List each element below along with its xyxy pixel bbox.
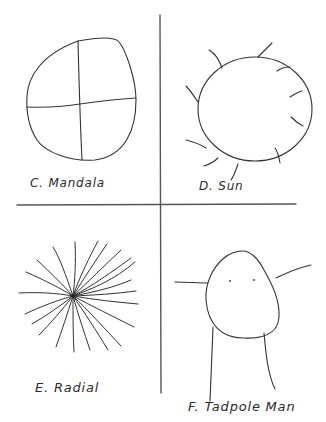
drawing-canvas	[0, 0, 326, 422]
sun-ray	[209, 50, 222, 68]
mandala-drawing	[27, 38, 136, 160]
tadpole-head	[206, 251, 279, 338]
sun-ray	[186, 86, 198, 102]
radial-line	[56, 296, 73, 347]
sun-body	[198, 57, 312, 161]
radial-line	[39, 296, 73, 335]
tadpole-left-eye	[229, 280, 231, 282]
mandala-horizontal-line	[27, 98, 136, 107]
horizontal-divider	[17, 204, 296, 205]
tadpole-left-leg	[210, 327, 213, 401]
sun-ray	[277, 67, 290, 71]
sun-ray	[291, 117, 303, 126]
radial-line	[19, 293, 73, 296]
tadpole-man-drawing	[175, 251, 311, 401]
sun-ray	[231, 164, 238, 180]
label-radial: E. Radial	[35, 380, 99, 395]
radial-line	[32, 296, 73, 324]
tadpole-right-arm	[276, 265, 311, 278]
label-tadpole-man: F. Tadpole Man	[188, 399, 295, 414]
sun-ray	[204, 158, 218, 166]
sun-ray	[290, 91, 302, 97]
radial-line	[73, 242, 75, 296]
mandala-vertical-line	[78, 41, 82, 160]
sun-ray	[275, 148, 280, 163]
label-mandala: C. Mandala	[30, 176, 105, 190]
radial-line	[73, 250, 121, 296]
tadpole-right-eye	[253, 279, 255, 281]
radial-center	[71, 294, 74, 297]
sun-drawing	[186, 43, 312, 180]
label-sun: D. Sun	[199, 179, 244, 193]
radial-line	[73, 244, 107, 296]
radial-line	[53, 247, 73, 296]
sun-ray	[186, 140, 206, 148]
tadpole-right-leg	[264, 333, 275, 389]
tadpole-left-arm	[175, 282, 208, 283]
radial-line	[73, 296, 108, 350]
radial-line	[73, 258, 131, 296]
radial-line	[37, 260, 73, 296]
radial-line	[73, 291, 136, 296]
radial-drawing	[19, 241, 138, 352]
radial-line	[73, 296, 74, 352]
sun-ray	[258, 43, 272, 57]
radial-line	[73, 296, 138, 304]
